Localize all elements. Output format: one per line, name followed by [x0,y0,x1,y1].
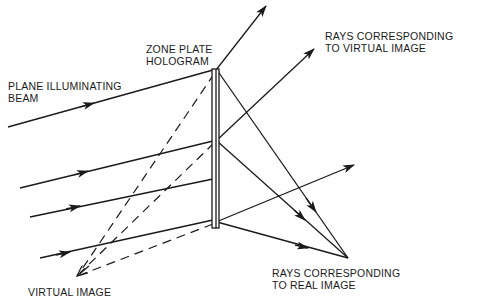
real-ray-1 [217,70,348,258]
zone-plate-label: ZONE PLATE HOLOGRAM [146,43,213,67]
virtual-rays-label-line2: TO VIRTUAL IMAGE [325,42,453,54]
virtual-image-label: VIRTUAL IMAGE [28,286,111,298]
real-rays-label-line2: TO REAL IMAGE [272,279,400,291]
virtual-ray-1 [216,6,266,70]
real-image-rays [217,70,348,258]
virtual-rays-label-line1: RAYS CORRESPONDING [325,30,453,42]
incident-ray-2-arrow-icon [74,171,88,175]
zone-plate-label-line1: ZONE PLATE [146,43,213,55]
illuminating-beam-label-line2: BEAM [8,92,122,104]
virtual-ray-3 [216,165,354,222]
dashed-projection-2 [80,143,214,273]
real-rays-label-line1: RAYS CORRESPONDING [272,267,400,279]
real-ray-2-arrow-icon [294,210,305,220]
zone-plate-label-line2: HOLOGRAM [146,55,213,67]
illuminating-beam-label: PLANE ILLUMINATING BEAM [8,80,122,104]
real-rays-label: RAYS CORRESPONDING TO REAL IMAGE [272,267,400,291]
virtual-ray-2 [216,49,314,141]
illuminating-beam-label-line1: PLANE ILLUMINATING [8,80,122,92]
virtual-rays-label: RAYS CORRESPONDING TO VIRTUAL IMAGE [325,30,453,54]
dashed-projection-3 [80,224,213,275]
real-ray-1-arrow-icon [306,198,316,212]
incident-ray-2 [20,141,213,188]
